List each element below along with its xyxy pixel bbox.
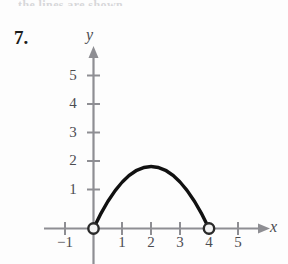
figure-page: the lines are shown 7. <box>0 0 288 264</box>
x-tick-label-4: 4 <box>198 234 220 251</box>
y-tick-label-5: 5 <box>62 67 84 84</box>
y-tick-label-3: 3 <box>62 124 84 141</box>
coordinate-plot <box>0 0 288 264</box>
y-tick-label-4: 4 <box>62 95 84 112</box>
x-tick-label-1: 1 <box>111 234 133 251</box>
x-tick-label-3: 3 <box>169 234 191 251</box>
x-axis-label: x <box>270 218 277 236</box>
parabola-curve <box>94 167 210 229</box>
endpoint-open-circle-four <box>204 223 214 233</box>
endpoint-open-circle-origin <box>88 223 98 233</box>
y-tick-label-2: 2 <box>62 152 84 169</box>
x-tick-label--1: −1 <box>54 234 76 251</box>
y-axis-label: y <box>86 26 93 44</box>
y-tick-label-1: 1 <box>62 181 84 198</box>
x-tick-label-2: 2 <box>140 234 162 251</box>
x-tick-label-5: 5 <box>227 234 249 251</box>
